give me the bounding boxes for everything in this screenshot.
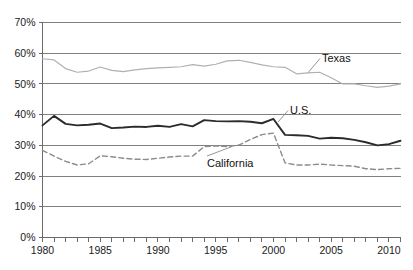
y-tick-label: 0% bbox=[20, 231, 35, 243]
series-label-texas: Texas bbox=[322, 52, 351, 64]
y-tick-label: 70% bbox=[14, 16, 35, 28]
gridlines bbox=[43, 23, 401, 207]
leader-line-u.s. bbox=[278, 111, 288, 123]
y-tick-label: 60% bbox=[14, 47, 35, 59]
line-chart: 0%10%20%30%40%50%60%70% 1980198519901995… bbox=[0, 0, 413, 270]
series-label-california: California bbox=[207, 157, 254, 169]
leader-line-texas bbox=[308, 59, 320, 73]
x-tick-label: 1990 bbox=[146, 244, 170, 256]
series-label-u.s.: U.S. bbox=[290, 104, 311, 116]
y-tick-label: 10% bbox=[14, 200, 35, 212]
chart-canvas: 0%10%20%30%40%50%60%70% 1980198519901995… bbox=[0, 0, 413, 270]
x-tick-label: 1980 bbox=[31, 244, 55, 256]
x-tick-label: 2010 bbox=[377, 244, 401, 256]
y-axis: 0%10%20%30%40%50%60%70% bbox=[14, 16, 42, 243]
x-tick-label: 2005 bbox=[320, 244, 344, 256]
x-tick-label: 2000 bbox=[262, 244, 286, 256]
y-tick-label: 20% bbox=[14, 170, 35, 182]
y-tick-label: 50% bbox=[14, 78, 35, 90]
series-annotations: TexasU.S.California bbox=[207, 52, 351, 169]
x-tick-label: 1985 bbox=[89, 244, 113, 256]
series-line-us bbox=[43, 116, 401, 145]
x-tick-label: 1995 bbox=[204, 244, 228, 256]
leader-line-california bbox=[207, 147, 232, 156]
y-tick-label: 30% bbox=[14, 139, 35, 151]
x-axis: 1980198519901995200020052010 bbox=[31, 238, 401, 256]
y-tick-label: 40% bbox=[14, 108, 35, 120]
